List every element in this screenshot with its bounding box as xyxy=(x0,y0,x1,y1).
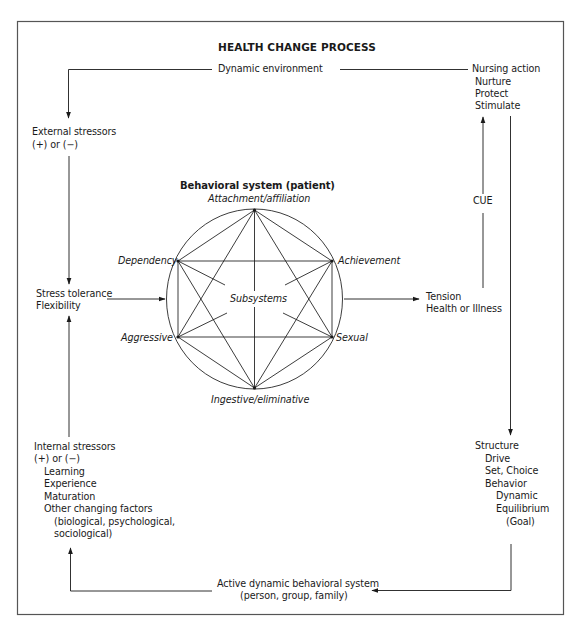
subsystems-center-label: Subsystems xyxy=(230,293,287,306)
equilibrium-label: Equilibrium xyxy=(496,503,549,516)
figure-title: HEALTH CHANGE PROCESS xyxy=(218,41,376,54)
subsystem-achievement: Achievement xyxy=(338,255,400,268)
subsystem-ingestive: Ingestive/eliminative xyxy=(211,394,309,407)
internal-stressors-label: Internal stressors xyxy=(34,441,115,454)
set-choice-label: Set, Choice xyxy=(485,465,538,478)
nursing-action-item: Protect xyxy=(475,88,508,101)
cue-label: CUE xyxy=(470,195,495,208)
internal-stressor-item: Other changing factors xyxy=(44,503,152,516)
flexibility-label: Flexibility xyxy=(36,300,81,313)
drive-label: Drive xyxy=(485,453,510,466)
internal-stressor-item: Maturation xyxy=(44,491,95,504)
internal-stressor-subitem: sociological) xyxy=(54,528,112,541)
stress-tolerance-label: Stress tolerance xyxy=(36,288,112,301)
nursing-action-item: Nurture xyxy=(475,76,511,89)
behavioral-system-title: Behavioral system (patient) xyxy=(180,180,335,193)
structure-label: Structure xyxy=(475,440,519,453)
nursing-action-heading: Nursing action xyxy=(472,63,540,76)
internal-stressors-sign: (+) or (−) xyxy=(34,453,80,466)
health-or-illness-label: Health or Illness xyxy=(426,303,502,316)
health-change-process-diagram: HEALTH CHANGE PROCESS Dynamic environmen… xyxy=(0,0,577,628)
internal-stressor-subitem: (biological, psychological, xyxy=(54,516,175,529)
internal-stressor-item: Learning xyxy=(44,466,85,479)
active-system-label: Active dynamic behavioral system xyxy=(217,578,379,591)
tension-label: Tension xyxy=(426,291,461,304)
dynamic-environment-connector xyxy=(69,70,469,119)
structure-to-active-connector xyxy=(372,544,511,591)
subsystem-attachment: Attachment/affiliation xyxy=(208,193,310,206)
subsystem-dependency: Dependency xyxy=(118,255,177,268)
subsystem-aggressive: Aggressive xyxy=(121,332,173,345)
dynamic-environment-label: Dynamic environment xyxy=(218,63,323,76)
internal-stressor-item: Experience xyxy=(44,478,97,491)
active-system-members: (person, group, family) xyxy=(240,590,348,603)
subsystem-sexual: Sexual xyxy=(336,332,368,345)
behavior-label: Behavior xyxy=(485,478,527,491)
active-to-internal-connector xyxy=(71,548,213,591)
external-stressors-sign: (+) or (−) xyxy=(32,139,78,152)
nursing-action-item: Stimulate xyxy=(475,100,520,113)
goal-label: (Goal) xyxy=(506,516,535,529)
external-stressors-label: External stressors xyxy=(32,126,116,139)
dynamic-label: Dynamic xyxy=(496,490,538,503)
